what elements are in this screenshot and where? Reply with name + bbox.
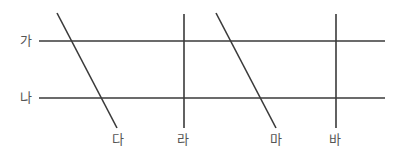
label-da: 다 (112, 133, 124, 146)
line-da (57, 13, 117, 128)
label-ga: 가 (20, 34, 32, 47)
line-ma (216, 13, 276, 128)
label-na: 나 (20, 91, 32, 104)
label-ma: 마 (270, 133, 282, 146)
label-ba: 바 (329, 133, 341, 146)
lines-diagram (0, 0, 402, 155)
label-ra: 라 (177, 133, 189, 146)
